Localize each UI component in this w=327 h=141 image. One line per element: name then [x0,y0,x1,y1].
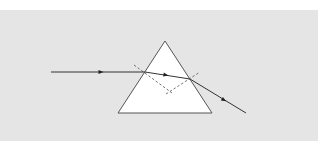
prism-refraction-diagram [0,0,327,141]
incident-arrow-icon [99,70,104,74]
diagram-canvas [0,0,327,141]
prism-triangle [118,41,212,113]
